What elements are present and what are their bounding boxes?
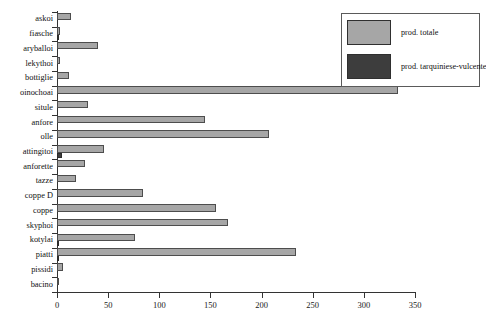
category-label: bottiglie — [1, 73, 53, 82]
bar-total — [57, 72, 69, 79]
bar-total — [57, 42, 98, 49]
bar-row — [57, 159, 415, 174]
bar-local — [57, 256, 59, 261]
x-tick-label: 200 — [255, 300, 268, 310]
x-axis-line — [57, 292, 416, 293]
category-label: bacino — [1, 280, 53, 289]
bar-row — [57, 100, 415, 115]
x-tick-label: 250 — [306, 300, 319, 310]
legend-label-total: prod. totale — [401, 28, 438, 37]
x-tick — [159, 293, 160, 298]
bar-local — [57, 35, 59, 40]
dark-gray-swatch — [347, 54, 391, 79]
bar-total — [57, 57, 60, 64]
bar-total — [57, 234, 135, 241]
bar-total — [57, 263, 63, 270]
category-label: lekythoi — [1, 59, 53, 68]
category-label: olle — [1, 132, 53, 141]
bar-row — [57, 218, 415, 233]
bar-local — [57, 241, 59, 246]
category-label: oinochoai — [1, 88, 53, 97]
x-tick-label: 300 — [357, 300, 370, 310]
bar-total — [57, 175, 76, 182]
bar-total — [57, 248, 296, 255]
light-gray-swatch — [347, 20, 391, 45]
bar-row — [57, 86, 415, 101]
category-label: tazze — [1, 176, 53, 185]
x-tick-label: 350 — [409, 300, 422, 310]
chart-legend: prod. totale prod. tarquiniese-vulcente — [341, 13, 480, 87]
bar-row — [57, 204, 415, 219]
category-label: piatti — [1, 250, 53, 259]
x-tick — [108, 293, 109, 298]
bar-total — [57, 189, 143, 196]
category-label: askoi — [1, 14, 53, 23]
bar-row — [57, 233, 415, 248]
bar-row — [57, 263, 415, 278]
bar-total — [57, 219, 228, 226]
category-label: coppe D — [1, 191, 53, 200]
x-tick — [210, 293, 211, 298]
category-label: aryballoi — [1, 44, 53, 53]
bar-total — [57, 130, 269, 137]
bar-total — [57, 145, 104, 152]
bar-row — [57, 145, 415, 160]
category-label: anforette — [1, 162, 53, 171]
bar-total — [57, 160, 85, 167]
bar-row — [57, 130, 415, 145]
category-label: fiasche — [1, 29, 53, 38]
bar-row — [57, 248, 415, 263]
bar-row — [57, 174, 415, 189]
category-label: anfore — [1, 118, 53, 127]
category-label: attingitoi — [1, 147, 53, 156]
legend-label-local: prod. tarquiniese-vulcente — [401, 62, 486, 71]
category-label: pissidi — [1, 265, 53, 274]
category-label: skyphoi — [1, 221, 53, 230]
bar-total — [57, 204, 216, 211]
x-tick — [415, 293, 416, 298]
bar-total — [57, 116, 205, 123]
bar-total — [57, 278, 59, 285]
bar-row — [57, 277, 415, 292]
x-tick — [262, 293, 263, 298]
category-label: kotylai — [1, 235, 53, 244]
bar-row — [57, 115, 415, 130]
bar-total — [57, 86, 398, 93]
category-axis-labels: askoifiaschearyballoilekythoibottiglieoi… — [0, 12, 53, 292]
x-tick-label: 0 — [55, 300, 59, 310]
bar-total — [57, 13, 71, 20]
x-tick — [364, 293, 365, 298]
x-tick-label: 150 — [204, 300, 217, 310]
bar-total — [57, 101, 88, 108]
bar-total — [57, 27, 60, 34]
bar-local — [57, 153, 62, 158]
x-tick-label: 50 — [104, 300, 113, 310]
x-tick-label: 100 — [153, 300, 166, 310]
x-tick — [57, 293, 58, 298]
bar-row — [57, 189, 415, 204]
x-tick — [313, 293, 314, 298]
category-label: coppe — [1, 206, 53, 215]
category-label: situle — [1, 103, 53, 112]
